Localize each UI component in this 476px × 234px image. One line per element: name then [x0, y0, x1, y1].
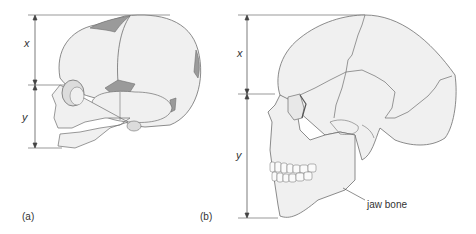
- dimension-y-label-b: y: [236, 150, 242, 161]
- dimension-x-arrow-a: [33, 15, 37, 148]
- dimension-x-label-b: x: [237, 48, 243, 59]
- jaw-bone-label: jaw bone: [367, 200, 407, 210]
- dimension-x-arrow-b: [245, 15, 249, 218]
- jaw-bone-leader-line: [343, 188, 365, 200]
- teeth: [270, 162, 316, 182]
- infant-skull: [28, 15, 201, 148]
- dimension-x-label-a: x: [24, 38, 30, 49]
- adult-skull: [238, 15, 456, 218]
- panel-a-label: (a): [22, 212, 34, 222]
- panel-b-label: (b): [200, 212, 212, 222]
- dimension-y-label-a: y: [22, 112, 28, 123]
